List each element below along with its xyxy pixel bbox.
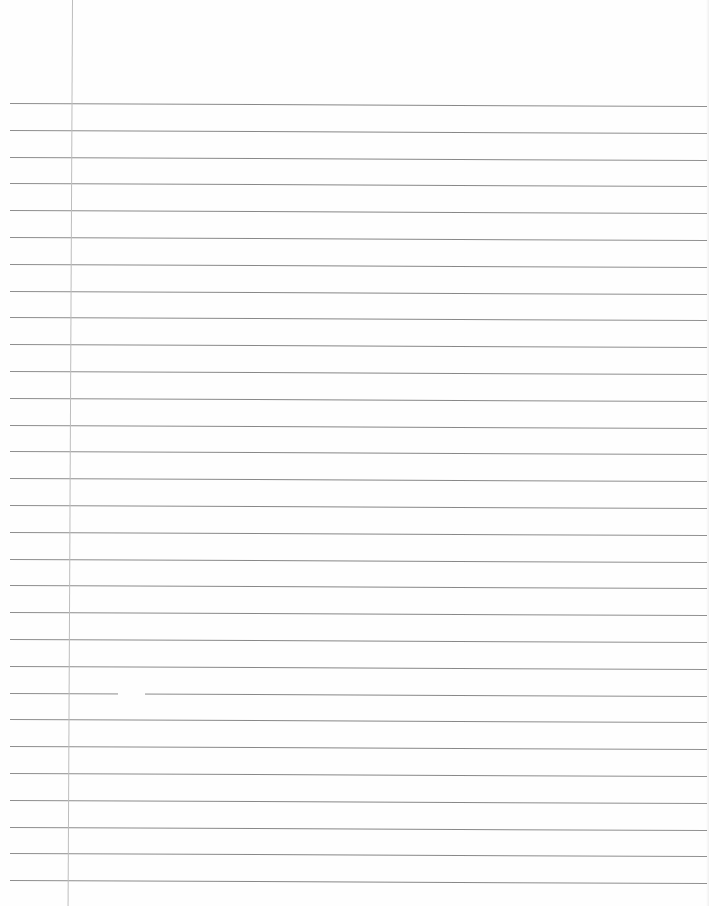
ruled-line <box>10 612 707 616</box>
ruled-line <box>10 451 707 455</box>
ruled-line <box>10 183 707 187</box>
ruled-line <box>10 800 707 804</box>
ruled-line <box>10 103 707 107</box>
line-gap <box>118 692 145 696</box>
ruled-line <box>10 666 707 670</box>
ruled-line <box>10 210 707 214</box>
ruled-line <box>10 157 707 161</box>
ruled-line <box>10 853 707 857</box>
ruled-line <box>10 425 707 429</box>
ruled-line <box>10 585 707 589</box>
ruled-line <box>10 291 707 295</box>
ruled-line <box>10 505 707 509</box>
ruled-line <box>10 130 707 134</box>
ruled-line <box>10 532 707 536</box>
ruled-line <box>10 693 707 697</box>
ruled-line <box>10 773 707 777</box>
ruled-line <box>10 478 707 482</box>
ruled-line <box>10 371 707 375</box>
ruled-line <box>10 827 707 831</box>
ruled-line <box>10 237 707 241</box>
ruled-line <box>10 746 707 750</box>
ruled-line <box>10 264 707 268</box>
ruled-line <box>10 559 707 563</box>
ruled-paper-page <box>0 0 709 906</box>
ruled-line <box>10 719 707 723</box>
ruled-line <box>10 344 707 348</box>
ruled-line <box>10 398 707 402</box>
ruled-line <box>10 880 707 884</box>
margin-line <box>68 0 73 906</box>
ruled-line <box>10 317 707 321</box>
ruled-line <box>10 639 707 643</box>
